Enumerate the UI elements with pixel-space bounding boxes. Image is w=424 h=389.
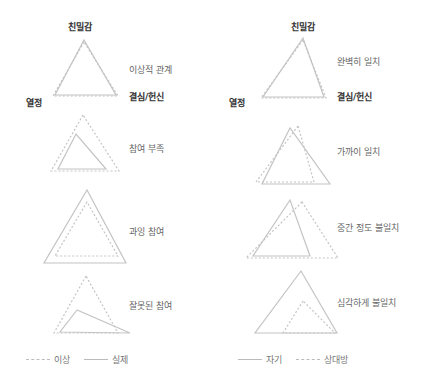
legend-label: 이상 <box>54 353 70 366</box>
case-label: 이상적 관계 <box>129 66 172 75</box>
case-label: 중간 정도 불일치 <box>337 224 399 233</box>
legend-item-actual: 실제 <box>84 353 128 366</box>
solid-line-swatch <box>238 359 262 360</box>
axis-label-commitment-right: 결심/헌신 <box>337 93 372 102</box>
axis-label-intimacy-right: 친밀감 <box>291 23 315 32</box>
triangle-over-involvement <box>44 190 126 263</box>
legend-item-ideal: 이상 <box>26 353 70 366</box>
dashed-line-swatch <box>26 359 50 360</box>
triangle-misinvolvement <box>54 276 130 333</box>
legend-label: 자기 <box>266 353 282 366</box>
case-label: 심각하게 불일치 <box>337 299 396 308</box>
triangle-ideal-relationship <box>53 40 118 96</box>
dashed-line-swatch <box>296 359 320 360</box>
legend-item-partner: 상대방 <box>296 353 348 366</box>
case-label: 잘못된 참여 <box>129 302 172 311</box>
legend-label: 실제 <box>112 353 128 366</box>
axis-label-intimacy: 친밀감 <box>68 23 92 32</box>
case-label: 참여 부족 <box>129 145 164 154</box>
legend-item-self: 자기 <box>238 353 282 366</box>
axis-label-commitment: 결심/헌신 <box>129 93 164 102</box>
case-label: 가까이 일치 <box>337 148 380 157</box>
solid-line-swatch <box>84 359 108 360</box>
axis-label-passion: 열정 <box>26 99 42 108</box>
triangle-moderate-mismatch <box>246 200 338 258</box>
triangle-under-involvement <box>51 115 119 171</box>
axis-label-passion-right: 열정 <box>229 99 245 108</box>
triangle-perfect-match <box>261 38 326 98</box>
legend-left: 이상 실제 <box>26 353 142 366</box>
triangle-close-match <box>256 126 330 184</box>
legend-right: 자기 상대방 <box>238 353 362 366</box>
case-label: 완벽히 일치 <box>337 58 380 67</box>
case-label: 과잉 참여 <box>129 228 164 237</box>
triangle-severe-mismatch <box>255 271 337 333</box>
legend-label: 상대방 <box>324 353 348 366</box>
